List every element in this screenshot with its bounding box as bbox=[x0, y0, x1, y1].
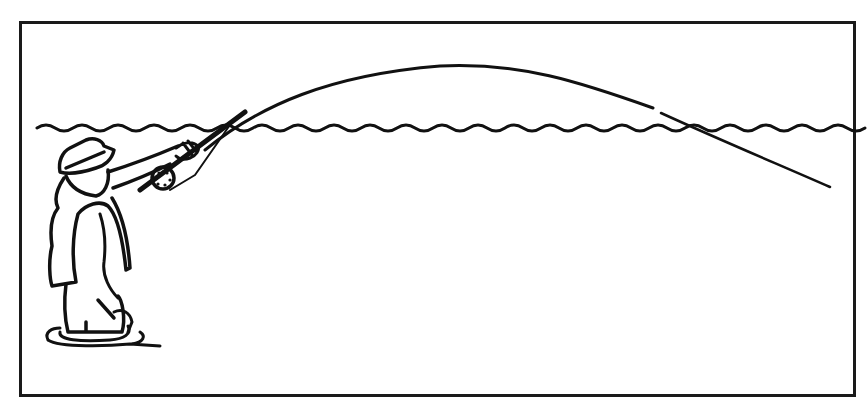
vest-armhole bbox=[100, 214, 118, 298]
fly-line bbox=[205, 65, 653, 150]
ripples bbox=[47, 326, 160, 346]
line-to-reel bbox=[170, 122, 232, 190]
waders bbox=[65, 284, 124, 332]
fly-fishing-illustration bbox=[0, 0, 868, 416]
arm bbox=[108, 146, 178, 188]
water-surface bbox=[37, 125, 865, 131]
hat bbox=[59, 139, 114, 173]
illustration-canvas bbox=[0, 0, 868, 416]
